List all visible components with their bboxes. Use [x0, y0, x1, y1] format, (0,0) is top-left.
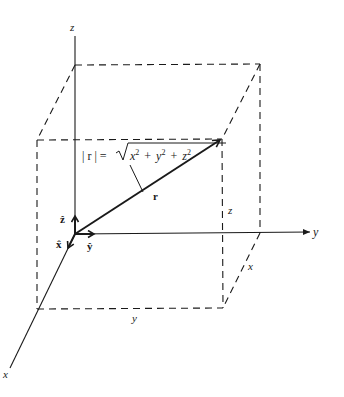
x-axis [10, 234, 75, 368]
z-edge-label: z [227, 204, 233, 216]
x-edge-label: x [247, 260, 253, 272]
magnitude-formula: | r | = x2+y2+z2 [82, 143, 226, 163]
axes [10, 36, 310, 368]
x-axis-label: x [2, 368, 8, 380]
magnitude-lhs: | r | = [82, 149, 107, 163]
z-axis-label: z [69, 21, 75, 33]
x-hat-label: x̂ [56, 238, 62, 250]
y-edge-label: y [131, 312, 137, 324]
cartesian-position-vector-diagram: z y x ẑ x̂ ŷ r | r | = x2+y2+z2 z x y [0, 0, 344, 397]
formula-leader-line [130, 165, 143, 192]
y-hat-label: ŷ [87, 240, 93, 252]
z-hat-label: ẑ [60, 213, 65, 225]
y-axis [75, 232, 310, 234]
y-axis-label: y [312, 225, 319, 239]
radicand: x2+y2+z2 [129, 148, 191, 163]
x-hat-arrow [68, 234, 75, 248]
vector-r-label: r [153, 190, 158, 202]
